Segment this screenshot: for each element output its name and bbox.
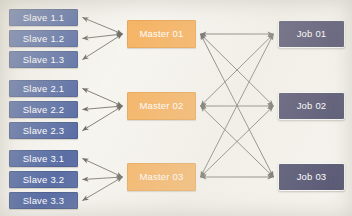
node-slave-2-2[interactable]: Slave 2.2	[9, 101, 78, 118]
node-job-01[interactable]: Job 01	[278, 20, 345, 48]
node-job-03[interactable]: Job 03	[278, 163, 345, 191]
node-slave-2-3[interactable]: Slave 2.3	[9, 122, 78, 139]
edge-slave-2-3-to-master-02	[83, 106, 123, 131]
node-slave-3-2[interactable]: Slave 3.2	[9, 171, 78, 188]
node-master-02-label: Master 02	[139, 101, 183, 111]
edge-slave-3-1-to-master-03	[83, 159, 123, 178]
node-master-03-label: Master 03	[139, 172, 183, 182]
node-job-03-label: Job 03	[297, 172, 327, 182]
node-slave-1-2[interactable]: Slave 1.2	[9, 30, 78, 47]
node-slave-3-3-label: Slave 3.3	[23, 196, 64, 206]
node-slave-2-2-label: Slave 2.2	[23, 105, 64, 115]
node-slave-1-3[interactable]: Slave 1.3	[9, 51, 78, 68]
node-slave-3-1-label: Slave 3.1	[23, 154, 64, 164]
edge-slave-1-1-to-master-01	[83, 18, 123, 35]
node-job-02-label: Job 02	[297, 101, 327, 111]
edge-slave-2-2-to-master-02	[83, 106, 123, 110]
edge-slave-2-1-to-master-02	[83, 89, 123, 107]
node-master-01[interactable]: Master 01	[127, 20, 196, 48]
node-slave-3-2-label: Slave 3.2	[23, 175, 64, 185]
edge-slave-3-2-to-master-03	[83, 177, 123, 180]
node-master-02[interactable]: Master 02	[127, 92, 196, 120]
node-slave-3-3[interactable]: Slave 3.3	[9, 192, 78, 209]
node-slave-2-3-label: Slave 2.3	[23, 126, 64, 136]
node-slave-1-1-label: Slave 1.1	[23, 13, 64, 23]
node-slave-1-3-label: Slave 1.3	[23, 55, 64, 65]
node-job-02[interactable]: Job 02	[278, 92, 345, 120]
node-job-01-label: Job 01	[297, 29, 327, 39]
edge-slave-3-3-to-master-03	[83, 177, 123, 201]
node-master-01-label: Master 01	[139, 29, 183, 39]
node-slave-1-2-label: Slave 1.2	[23, 34, 64, 44]
node-master-03[interactable]: Master 03	[127, 163, 196, 191]
node-slave-1-1[interactable]: Slave 1.1	[9, 9, 78, 26]
node-slave-2-1-label: Slave 2.1	[23, 84, 64, 94]
node-slave-3-1[interactable]: Slave 3.1	[9, 150, 78, 167]
node-slave-2-1[interactable]: Slave 2.1	[9, 80, 78, 97]
diagram-canvas: Slave 1.1Slave 1.2Slave 1.3Master 01Slav…	[0, 0, 352, 216]
